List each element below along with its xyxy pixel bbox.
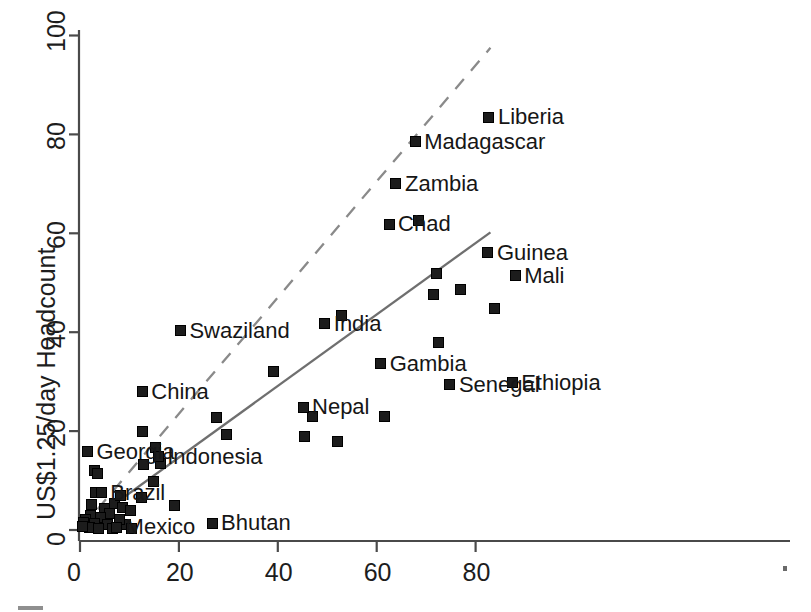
point-label-mali: Mali [524,265,564,287]
point-label-madagascar: Madagascar [424,131,545,153]
data-point [455,284,466,295]
data-point-nepal [298,402,309,413]
point-label-china: China [151,381,208,403]
data-point [93,523,104,534]
data-point [433,337,444,348]
x-tick-label-80: 80 [463,558,491,587]
data-point-india [319,318,330,329]
y-tick-label-60: 60 [42,221,71,249]
data-point-liberia [483,112,494,123]
data-point [92,468,103,479]
point-label-mexico: Mexico [126,516,196,538]
data-point-guinea [482,247,493,258]
point-label-guinea: Guinea [497,242,568,264]
scan-artifact-dot [783,566,787,571]
data-point [428,289,439,300]
data-point-mali [510,270,521,281]
data-point-china [137,386,148,397]
point-label-bhutan: Bhutan [221,512,291,534]
point-label-swaziland: Swaziland [189,320,289,342]
x-tick-label-0: 0 [67,558,81,587]
y-tick-label-100: 100 [42,10,71,52]
x-tick-label-60: 60 [364,558,392,587]
y-tick-label-80: 80 [42,123,71,151]
y-tick-label-0: 0 [42,532,71,546]
x-axis-ticks [80,541,476,552]
data-point [86,499,97,510]
scan-artifact-mark [18,606,43,610]
y-axis-title: US$1.25/day Headcount [32,248,61,520]
scatter-plot-figure: LiberiaMadagascarZambiaChadGuineaMaliInd… [0,0,811,612]
data-point-swaziland [175,325,186,336]
data-point [332,436,343,447]
point-label-indonesia: Indonesia [167,446,262,468]
point-label-liberia: Liberia [498,106,564,128]
point-label-nepal: Nepal [312,396,369,418]
point-label-ethiopia: Ethiopia [521,372,601,394]
data-point [169,500,180,511]
data-point-mexico [111,522,122,533]
point-label-zambia: Zambia [405,173,478,195]
x-tick-label-20: 20 [166,558,194,587]
y-axis-ticks [69,36,79,531]
data-point-zambia [390,178,401,189]
data-point [299,431,310,442]
point-label-georgia: Georgia [96,441,174,463]
data-point-bhutan [207,518,218,529]
data-point [431,268,442,279]
data-point-senegal [444,379,455,390]
data-point-brazil [96,487,107,498]
data-point [221,429,232,440]
data-point-chad [384,219,395,230]
point-label-gambia: Gambia [390,353,467,375]
data-point-georgia [82,446,93,457]
data-point-madagascar [410,136,421,147]
data-point [137,426,148,437]
x-tick-label-40: 40 [265,558,293,587]
point-label-brazil: Brazil [110,482,165,504]
data-point [489,303,500,314]
data-point [77,521,88,532]
data-point [268,366,279,377]
data-point [379,411,390,422]
data-point [211,412,222,423]
data-point-gambia [375,358,386,369]
point-label-chad: Chad [398,213,451,235]
point-label-india: India [334,313,382,335]
